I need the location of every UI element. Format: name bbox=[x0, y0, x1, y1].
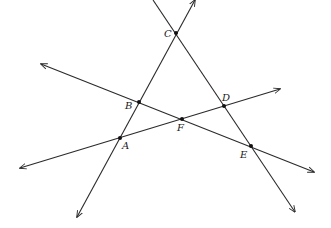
label-D: D bbox=[221, 92, 230, 103]
point-E bbox=[249, 144, 253, 148]
geometry-diagram: ABCDEF bbox=[0, 0, 331, 228]
point-C bbox=[174, 31, 178, 35]
label-B: B bbox=[124, 100, 132, 111]
point-F bbox=[180, 117, 184, 121]
line-BE bbox=[41, 64, 314, 172]
label-C: C bbox=[164, 28, 172, 39]
label-A: A bbox=[121, 140, 129, 151]
point-B bbox=[137, 100, 141, 104]
point-D bbox=[222, 104, 226, 108]
label-E: E bbox=[239, 149, 248, 160]
label-F: F bbox=[176, 122, 185, 133]
